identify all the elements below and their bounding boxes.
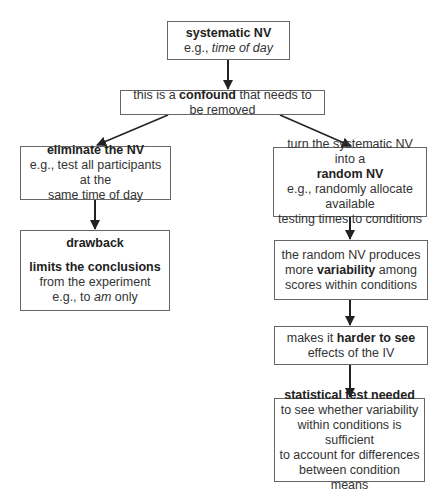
node-title: statistical test needed bbox=[284, 388, 415, 402]
text: only bbox=[111, 290, 137, 304]
text-line: to account for differences bbox=[279, 448, 419, 463]
node-confound: this is a confound that needs to be remo… bbox=[120, 90, 325, 115]
example-text: time of day bbox=[212, 41, 273, 55]
node-title: drawback bbox=[66, 236, 124, 250]
text-line: within conditions is sufficient bbox=[279, 418, 420, 448]
text: makes it bbox=[287, 331, 337, 345]
text-line: same time of day bbox=[48, 188, 143, 203]
text-line: e.g., test all participants at the bbox=[25, 158, 166, 188]
text-line: testing times to conditions bbox=[278, 212, 422, 227]
bold-text: variability bbox=[317, 263, 375, 277]
text: among bbox=[375, 263, 417, 277]
text-line: scores within conditions bbox=[285, 278, 417, 293]
text-line: effects of the IV bbox=[308, 346, 395, 361]
node-random-nv: turn the systematic NV into a random NV … bbox=[273, 147, 427, 217]
node-drawback: drawback limits the conclusions from the… bbox=[20, 230, 170, 311]
text-line: between condition means bbox=[279, 463, 420, 493]
bold-text: confound bbox=[179, 88, 236, 102]
arrow-confound-to-eliminate bbox=[97, 115, 168, 145]
text: more bbox=[285, 263, 317, 277]
text-line: from the experiment bbox=[39, 275, 150, 290]
node-title: eliminate the NV bbox=[47, 143, 144, 157]
node-eliminate-nv: eliminate the NV e.g., test all particip… bbox=[20, 146, 171, 200]
text-line: the random NV produces bbox=[282, 248, 421, 263]
bold-text: limits the conclusions bbox=[29, 260, 160, 274]
text-line: e.g., randomly allocate available bbox=[278, 182, 422, 212]
example-prefix: e.g., bbox=[184, 41, 212, 55]
node-variability: the random NV produces more variability … bbox=[274, 240, 428, 300]
node-statistical-test: statistical test needed to see whether v… bbox=[274, 398, 425, 482]
text: this is a bbox=[133, 88, 179, 102]
node-systematic-nv: systematic NV e.g., time of day bbox=[167, 21, 290, 60]
italic-text: am bbox=[94, 290, 111, 304]
bold-text: harder to see bbox=[337, 331, 416, 345]
node-harder-to-see: makes it harder to see effects of the IV bbox=[274, 326, 428, 365]
text-line: turn the systematic NV into a bbox=[278, 137, 422, 167]
text: e.g., to bbox=[52, 290, 94, 304]
bold-text: random NV bbox=[317, 167, 384, 181]
node-title: systematic NV bbox=[186, 26, 271, 40]
text-line: to see whether variability bbox=[281, 403, 419, 418]
